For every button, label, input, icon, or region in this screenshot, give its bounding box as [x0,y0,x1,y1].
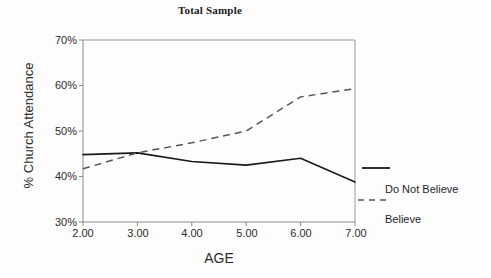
axis-frame [83,40,355,222]
x-axis-ticks [83,222,355,226]
plot-canvas [0,0,491,278]
series-line-believe [83,89,355,169]
y-axis-ticks [79,40,83,222]
chart-figure: Total Sample % Church Attendance AGE 70%… [0,0,491,278]
